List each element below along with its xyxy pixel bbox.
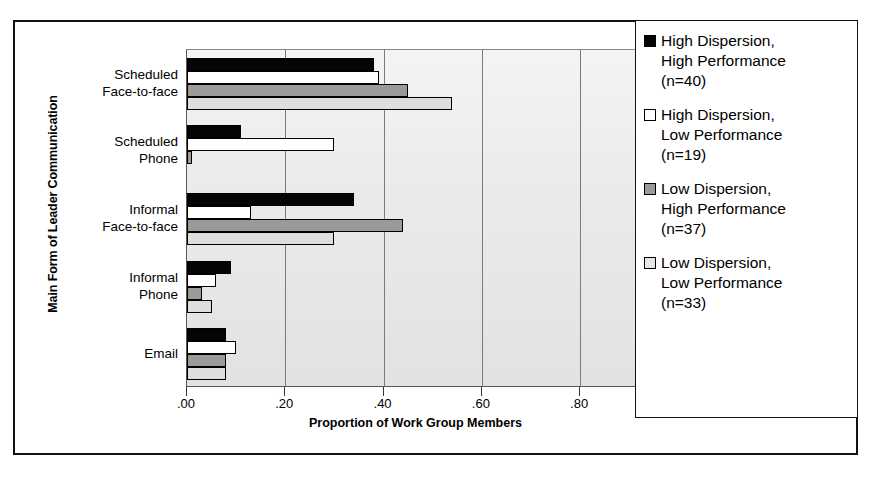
legend-item-label: Low Dispersion, High Performance (n=37) bbox=[661, 179, 786, 239]
bar bbox=[187, 232, 334, 245]
chart-legend: High Dispersion, High Performance (n=40)… bbox=[635, 20, 858, 418]
x-axis-tick-label: .00 bbox=[177, 396, 195, 411]
x-axis-tick-label: .60 bbox=[472, 396, 490, 411]
category-label: Informal Face-to-face bbox=[60, 184, 182, 252]
legend-item[interactable]: Low Dispersion, High Performance (n=37) bbox=[644, 179, 857, 239]
legend-item[interactable]: High Dispersion, High Performance (n=40) bbox=[644, 31, 857, 91]
category-label: Email bbox=[60, 319, 182, 387]
bar bbox=[187, 193, 354, 206]
x-axis-tick bbox=[481, 387, 482, 396]
bar bbox=[187, 138, 334, 151]
x-axis-tick bbox=[284, 387, 285, 396]
bar bbox=[187, 151, 192, 164]
bar-group bbox=[187, 50, 644, 118]
bar bbox=[187, 300, 212, 313]
bar bbox=[187, 367, 226, 380]
bar bbox=[187, 261, 231, 274]
bar bbox=[187, 97, 452, 110]
bar bbox=[187, 58, 374, 71]
gray-swatch bbox=[644, 183, 656, 195]
x-axis-tick-label: .40 bbox=[374, 396, 392, 411]
bar-group bbox=[187, 253, 644, 321]
legend-item-label: High Dispersion, Low Performance (n=19) bbox=[661, 105, 782, 165]
bar-groups bbox=[187, 50, 644, 386]
bar bbox=[187, 71, 379, 84]
y-axis-category-labels: Scheduled Face-to-faceScheduled PhoneInf… bbox=[60, 49, 182, 387]
bar-group bbox=[187, 320, 644, 388]
bar bbox=[187, 287, 202, 300]
bar bbox=[187, 219, 403, 232]
bar-group bbox=[187, 185, 644, 253]
light-gray-swatch bbox=[644, 257, 656, 269]
legend-item[interactable]: High Dispersion, Low Performance (n=19) bbox=[644, 105, 857, 165]
x-axis-tick-label: .20 bbox=[275, 396, 293, 411]
bar bbox=[187, 328, 226, 341]
x-axis-ticks bbox=[186, 387, 645, 396]
legend-item-label: Low Dispersion, Low Performance (n=33) bbox=[661, 253, 782, 313]
x-axis-tick bbox=[383, 387, 384, 396]
legend-item-label: High Dispersion, High Performance (n=40) bbox=[661, 31, 786, 91]
bar bbox=[187, 84, 408, 97]
bar bbox=[187, 125, 241, 138]
category-label: Informal Phone bbox=[60, 252, 182, 320]
bar bbox=[187, 274, 216, 287]
bar bbox=[187, 206, 251, 219]
x-axis-tick-labels: .00.20.40.60.80 bbox=[186, 396, 645, 414]
y-axis-title: Main Form of Leader Communication bbox=[46, 54, 60, 354]
category-label: Scheduled Face-to-face bbox=[60, 49, 182, 117]
white-swatch bbox=[644, 109, 656, 121]
plot-area bbox=[186, 49, 645, 387]
black-swatch bbox=[644, 35, 656, 47]
bar bbox=[187, 341, 236, 354]
category-label: Scheduled Phone bbox=[60, 117, 182, 185]
x-axis-tick bbox=[579, 387, 580, 396]
x-axis-tick bbox=[186, 387, 187, 396]
x-axis-tick-label: .80 bbox=[570, 396, 588, 411]
bar bbox=[187, 354, 226, 367]
bar-group bbox=[187, 118, 644, 186]
x-axis-title: Proportion of Work Group Members bbox=[186, 416, 645, 430]
legend-item[interactable]: Low Dispersion, Low Performance (n=33) bbox=[644, 253, 857, 313]
